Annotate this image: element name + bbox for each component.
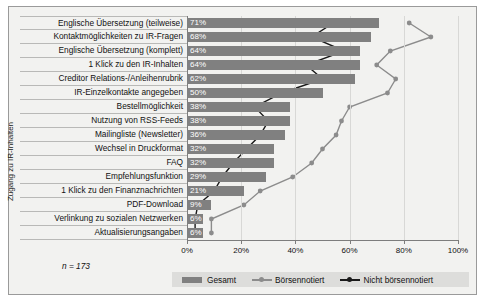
category-label-row: Aktualisierungsangaben xyxy=(20,226,187,240)
bar: 50% xyxy=(187,88,323,98)
bar-value-label: 6% xyxy=(190,214,202,224)
category-label: Wechsel in Druckformat xyxy=(95,144,183,152)
category-label: Englische Übersetzung (komplett) xyxy=(58,46,183,54)
line-series-marker xyxy=(385,91,390,96)
x-axis-tick xyxy=(295,240,296,244)
line-series-marker xyxy=(309,161,314,166)
x-axis-tick xyxy=(241,240,242,244)
line-series-marker xyxy=(429,35,434,40)
bar-value-label: 21% xyxy=(190,186,206,196)
x-axis-tick-label: 100% xyxy=(448,246,468,255)
bar: 32% xyxy=(187,158,274,168)
bar-value-label: 62% xyxy=(190,74,206,84)
x-axis-tick-label: 60% xyxy=(342,246,358,255)
legend-line-swatch xyxy=(252,276,272,284)
bar-value-label: 9% xyxy=(190,200,202,210)
bar: 32% xyxy=(187,144,274,154)
bar: 64% xyxy=(187,60,360,70)
x-axis-tick-label: 80% xyxy=(396,246,412,255)
bar-value-label: 50% xyxy=(190,88,206,98)
bar-value-label: 32% xyxy=(190,158,206,168)
bar: 38% xyxy=(187,102,290,112)
bar: 62% xyxy=(187,74,355,84)
line-series-marker xyxy=(407,21,412,26)
category-label: Aktualisierungsangaben xyxy=(94,228,183,236)
line-series-marker xyxy=(209,217,214,222)
legend-label: Nicht börsennotiert xyxy=(363,275,433,285)
category-label-column: Englische Übersetzung (teilweise)Kontakt… xyxy=(20,16,187,240)
x-axis-tick-label: 40% xyxy=(287,246,303,255)
line-series-marker xyxy=(388,49,393,54)
x-axis-tick xyxy=(350,240,351,244)
bar: 64% xyxy=(187,46,360,56)
line-series-marker xyxy=(393,77,398,82)
category-label: Creditor Relations-/Anleihenrubrik xyxy=(58,74,183,82)
x-axis-tick-label: 0% xyxy=(181,246,193,255)
bar: 6% xyxy=(187,228,203,238)
category-label: Bestellmöglichkeit xyxy=(117,102,183,110)
gridline xyxy=(404,16,405,240)
bar: 21% xyxy=(187,186,244,196)
category-label-row: Creditor Relations-/Anleihenrubrik xyxy=(20,72,187,86)
bar: 36% xyxy=(187,130,285,140)
line-series-marker xyxy=(242,203,247,208)
line-series-marker xyxy=(320,147,325,152)
line-series-marker xyxy=(290,175,295,180)
y-axis-title-text: Zugang zu IR-Inhalten xyxy=(7,121,16,200)
chart-legend: GesamtBörsennotiertNicht börsennotiert xyxy=(172,272,469,287)
bar-value-label: 71% xyxy=(190,18,206,28)
line-series-marker xyxy=(209,231,214,236)
sample-size-annotation: n = 173 xyxy=(62,261,90,271)
line-series-marker xyxy=(258,189,263,194)
category-label-row: FAQ xyxy=(20,156,187,170)
category-label-row: IR-Einzelkontakte angegeben xyxy=(20,86,187,100)
bar-value-label: 38% xyxy=(190,102,206,112)
legend-item[interactable]: Nicht börsennotiert xyxy=(340,275,433,285)
x-axis-tick xyxy=(404,240,405,244)
bar-value-label: 38% xyxy=(190,116,206,126)
gridline xyxy=(458,16,459,240)
category-label-row: Bestellmöglichkeit xyxy=(20,100,187,114)
bar-value-label: 36% xyxy=(190,130,206,140)
bar: 9% xyxy=(187,200,211,210)
plot-area: 71%68%64%64%62%50%38%38%36%32%32%29%21%9… xyxy=(187,16,458,240)
chart-container: Zugang zu IR-Inhalten Englische Übersetz… xyxy=(0,0,485,302)
x-axis-line xyxy=(187,240,458,241)
legend-label: Börsennotiert xyxy=(275,275,324,285)
bar-value-label: 64% xyxy=(190,60,206,70)
legend-line-swatch xyxy=(340,276,360,284)
bar: 38% xyxy=(187,116,290,126)
bar-value-label: 32% xyxy=(190,144,206,154)
category-label: FAQ xyxy=(166,158,183,166)
legend-line-marker xyxy=(259,277,264,282)
bar: 71% xyxy=(187,18,379,28)
category-label: Verlinkung zu sozialen Netzwerken xyxy=(54,214,183,222)
legend-item[interactable]: Börsennotiert xyxy=(252,275,324,285)
category-label: IR-Einzelkontakte angegeben xyxy=(74,88,183,96)
category-label-row: Mailingliste (Newsletter) xyxy=(20,128,187,142)
legend-item[interactable]: Gesamt xyxy=(182,275,236,285)
category-label-row: Wechsel in Druckformat xyxy=(20,142,187,156)
category-label: 1 Klick zu den Finanznachrichten xyxy=(61,186,183,194)
x-axis-tick-label: 20% xyxy=(233,246,249,255)
category-label-row: Empfehlungsfunktion xyxy=(20,170,187,184)
category-label-row: Nutzung von RSS-Feeds xyxy=(20,114,187,128)
x-axis-tick xyxy=(187,240,188,244)
category-label-row: Englische Übersetzung (komplett) xyxy=(20,44,187,58)
y-axis-title: Zugang zu IR-Inhalten xyxy=(2,96,20,226)
category-label: Englische Übersetzung (teilweise) xyxy=(58,19,183,27)
category-label-row: Kontaktmöglichkeiten zu IR-Fragen xyxy=(20,30,187,44)
legend-label: Gesamt xyxy=(207,275,236,285)
bar: 6% xyxy=(187,214,203,224)
bar: 29% xyxy=(187,172,266,182)
category-label: Mailingliste (Newsletter) xyxy=(95,130,183,138)
bar-value-label: 6% xyxy=(190,228,202,238)
x-axis-tick xyxy=(458,240,459,244)
category-label: Nutzung von RSS-Feeds xyxy=(91,116,183,124)
bar-value-label: 68% xyxy=(190,32,206,42)
bar-value-label: 64% xyxy=(190,46,206,56)
category-label: Empfehlungsfunktion xyxy=(106,172,184,180)
legend-line-marker xyxy=(347,277,352,282)
category-label: Kontaktmöglichkeiten zu IR-Fragen xyxy=(53,32,183,40)
bar: 68% xyxy=(187,32,371,42)
